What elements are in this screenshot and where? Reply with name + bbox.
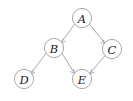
edge-b-to-e	[62, 53, 75, 74]
graph-svg: A B C D E	[0, 0, 133, 101]
node-a[interactable]: A	[72, 8, 91, 27]
edge-a-to-c	[90, 24, 106, 44]
edge-c-to-e-line	[90, 56, 105, 73]
node-d-label: D	[18, 73, 28, 87]
node-b-label: B	[49, 42, 58, 56]
node-a-label: A	[77, 12, 86, 26]
node-c-label: C	[108, 43, 117, 57]
edge-a-to-c-line	[90, 24, 105, 43]
edge-a-to-b	[61, 24, 75, 43]
node-e[interactable]: E	[72, 69, 91, 88]
node-group: A B C D E	[14, 8, 121, 88]
edge-group	[30, 24, 105, 74]
edge-c-to-e	[89, 56, 105, 75]
node-b[interactable]: B	[44, 38, 63, 57]
edge-b-to-d-line	[31, 53, 46, 73]
edge-b-to-d	[30, 53, 46, 74]
edge-b-to-e-line	[62, 53, 74, 73]
node-d[interactable]: D	[14, 69, 33, 88]
edge-a-to-b-line	[62, 24, 75, 42]
node-e-label: E	[77, 73, 87, 87]
graph-canvas: A B C D E	[0, 0, 133, 101]
node-c[interactable]: C	[102, 39, 121, 58]
